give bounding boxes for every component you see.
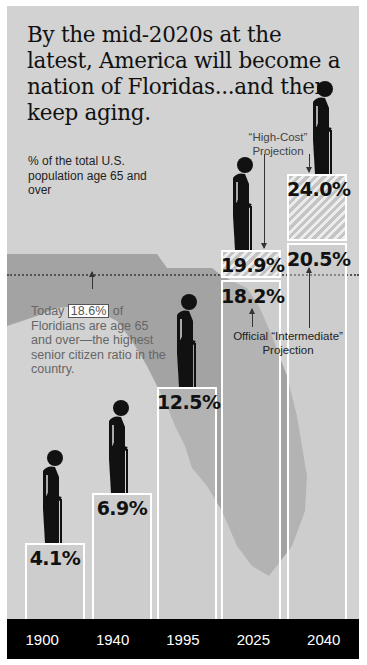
x-tick-1900: 1900	[12, 631, 72, 648]
today-prefix: Today	[31, 304, 64, 318]
bar-label-2025-high: 19.9%	[221, 254, 281, 276]
bar-label-2040: 20.5%	[287, 248, 347, 270]
x-tick-2040: 2040	[294, 631, 354, 648]
x-tick-2025: 2025	[223, 631, 283, 648]
high-cost-arrow-2025	[264, 154, 265, 248]
bar-label-1995: 12.5%	[157, 391, 217, 413]
elderly-figure-icon-2040	[307, 80, 343, 176]
today-value-box: 18.6%	[68, 304, 109, 318]
bar-1995	[157, 387, 217, 623]
x-tick-1995: 1995	[153, 631, 213, 648]
x-tick-1940: 1940	[83, 631, 143, 648]
elderly-figure-icon-1940	[103, 399, 139, 495]
bar-label-2040-high: 24.0%	[287, 178, 347, 200]
chart-subtitle: % of the total U.S. population age 65 an…	[28, 154, 168, 198]
x-axis: 1900 1940 1995 2025 2040	[7, 619, 359, 659]
bar-2040	[287, 243, 347, 623]
chart-title: By the mid-2020s at the latest, America …	[27, 22, 347, 126]
intermediate-arrow-2040	[309, 268, 310, 328]
bar-label-1900: 4.1%	[25, 547, 85, 569]
intermediate-arrow-2025	[252, 309, 253, 327]
florida-arrow	[92, 272, 93, 289]
elderly-figure-icon-2025	[227, 156, 263, 252]
elderly-figure-icon-1900	[37, 449, 73, 545]
intermediate-annotation: Official “Intermediate” Projection	[229, 330, 347, 357]
bar-label-2025: 18.2%	[221, 285, 281, 307]
chart-frame: By the mid-2020s at the latest, America …	[7, 6, 359, 659]
elderly-figure-icon-1995	[171, 293, 207, 389]
florida-annotation: Today 18.6% of Floridians are age 65 and…	[31, 304, 171, 377]
high-cost-annotation: “High-Cost” Projection	[243, 131, 313, 158]
bar-label-1940: 6.9%	[92, 497, 152, 519]
